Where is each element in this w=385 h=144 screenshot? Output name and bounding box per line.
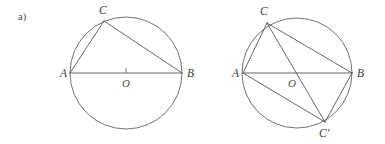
right-chord-cb [267,23,352,73]
right-point-label-a: A [231,67,240,79]
geometry-figure: a) A B C O A B C C' O [0,0,385,144]
right-point-label-c: C [260,5,268,17]
right-point-label-c-prime: C' [319,127,330,139]
left-point-label-b: B [187,67,194,79]
left-chord-cb [104,21,182,73]
left-panel: A B C O [59,4,194,129]
right-chord-cc-prime [267,23,325,122]
right-chord-c-prime-b [325,73,352,122]
right-point-label-b: B [357,67,364,79]
left-point-label-c: C [99,4,107,16]
left-point-label-a: A [59,67,68,79]
left-chord-ac [70,21,104,73]
right-chord-ac-prime [243,73,325,122]
right-chord-ac [243,23,267,73]
left-point-label-o: O [122,77,130,89]
figure-canvas: a) A B C O A B C C' O [0,0,385,144]
right-point-label-o: O [288,77,296,89]
part-label: a) [18,11,27,23]
right-panel: A B C C' O [231,5,364,139]
